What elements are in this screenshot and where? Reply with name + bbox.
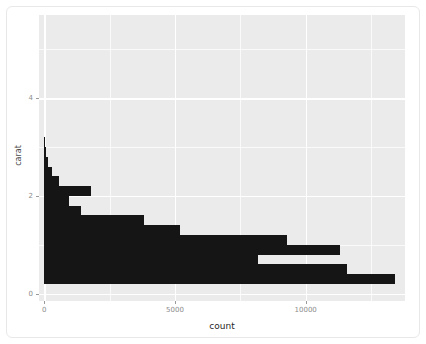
y-tick-mark xyxy=(36,98,39,99)
gridline-horizontal xyxy=(39,294,405,295)
histogram-bar xyxy=(44,225,180,235)
histogram-bar xyxy=(44,167,52,177)
x-tick-label: 0 xyxy=(24,306,64,314)
y-axis-title: carat xyxy=(14,126,23,186)
histogram-bar xyxy=(44,186,91,196)
histogram-bar xyxy=(44,255,257,265)
histogram-bar xyxy=(44,206,81,216)
histogram-bar xyxy=(44,196,69,206)
gridline-horizontal xyxy=(39,196,405,197)
gridline-vertical xyxy=(306,15,307,301)
y-tick-label: 2 xyxy=(13,192,33,200)
plot-panel xyxy=(39,15,405,301)
x-tick-mark xyxy=(175,301,176,304)
histogram-bar xyxy=(44,274,394,284)
gridline-horizontal xyxy=(39,147,405,148)
histogram-bar xyxy=(44,147,46,157)
figure-card: 0500010000 024 count carat xyxy=(6,6,420,338)
y-tick-label: 4 xyxy=(13,94,33,102)
histogram-bar xyxy=(44,235,287,245)
histogram-bar xyxy=(44,176,59,186)
gridline-horizontal xyxy=(39,98,405,99)
y-tick-mark xyxy=(36,294,39,295)
histogram-bar xyxy=(44,137,45,147)
x-axis-title: count xyxy=(39,321,405,331)
x-tick-label: 5000 xyxy=(155,306,195,314)
y-tick-label: 0 xyxy=(13,290,33,298)
gridline-horizontal xyxy=(39,49,405,50)
gridline-vertical xyxy=(371,15,372,301)
y-tick-mark xyxy=(36,196,39,197)
histogram-plot: 0500010000 024 count carat xyxy=(7,7,421,339)
x-tick-mark xyxy=(44,301,45,304)
histogram-bar xyxy=(44,215,144,225)
x-tick-label: 10000 xyxy=(286,306,326,314)
histogram-bar xyxy=(44,157,48,167)
histogram-bar xyxy=(44,264,347,274)
histogram-bar xyxy=(44,245,339,255)
x-tick-mark xyxy=(306,301,307,304)
